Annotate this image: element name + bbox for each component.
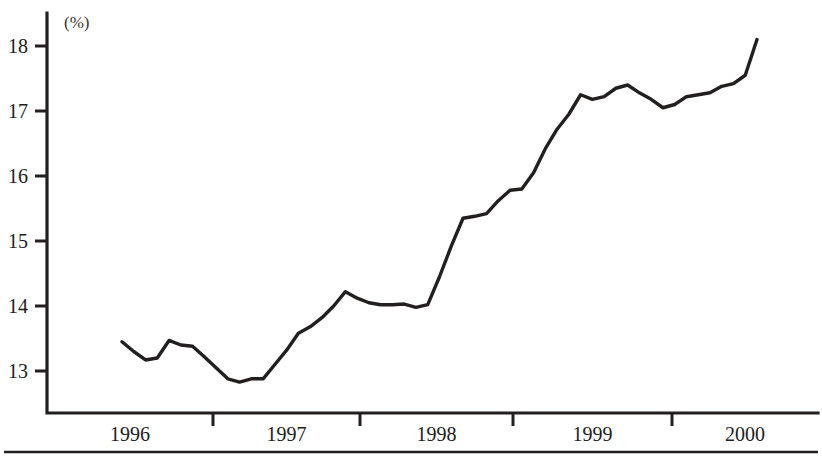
y-axis-unit-label: (%) bbox=[64, 13, 89, 32]
x-axis-tick-labels: 19961997199819992000 bbox=[110, 423, 765, 445]
line-chart: 131415161718 19961997199819992000 (%) bbox=[0, 0, 822, 461]
data-series-line bbox=[122, 40, 757, 383]
x-tick-label: 2000 bbox=[725, 423, 765, 445]
x-tick-label: 1997 bbox=[267, 423, 307, 445]
chart-container: 131415161718 19961997199819992000 (%) bbox=[0, 0, 822, 461]
x-tick-label: 1996 bbox=[110, 423, 150, 445]
y-tick-marks bbox=[35, 46, 47, 371]
y-axis-tick-labels: 131415161718 bbox=[8, 35, 28, 382]
axes-group bbox=[35, 13, 818, 426]
x-tick-label: 1999 bbox=[573, 423, 613, 445]
x-tick-label: 1998 bbox=[417, 423, 457, 445]
y-tick-label: 13 bbox=[8, 360, 28, 382]
y-tick-label: 18 bbox=[8, 35, 28, 57]
y-tick-label: 14 bbox=[8, 295, 28, 317]
y-tick-label: 15 bbox=[8, 230, 28, 252]
y-tick-label: 17 bbox=[8, 100, 28, 122]
y-tick-label: 16 bbox=[8, 165, 28, 187]
